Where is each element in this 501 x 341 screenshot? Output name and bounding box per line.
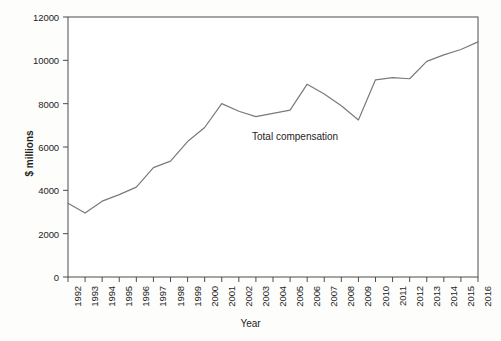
- x-axis-tick-label: 2010: [380, 286, 391, 307]
- x-axis-tick-label: 1996: [140, 286, 151, 307]
- x-axis-tick-label: 1994: [106, 286, 117, 307]
- x-axis-tick-label: 2001: [226, 286, 237, 307]
- x-axis-tick-label: 2015: [465, 286, 476, 307]
- y-axis-tick-marks: [63, 17, 68, 277]
- y-axis-tick-label: 2000: [10, 228, 59, 239]
- x-axis-tick-label: 2005: [294, 286, 305, 307]
- y-axis-title: $ millions: [24, 130, 35, 176]
- x-axis-tick-label: 2011: [397, 286, 408, 306]
- x-axis-tick-label: 1998: [175, 286, 186, 307]
- x-axis-tick-label: 2000: [209, 286, 220, 307]
- chart-figure: 020004000600080001000012000 199219931994…: [0, 0, 501, 341]
- x-axis-tick-label: 2002: [243, 286, 254, 307]
- y-axis-tick-label: 10000: [10, 55, 59, 66]
- x-axis-tick-label: 2003: [260, 286, 271, 307]
- x-axis-tick-label: 1999: [192, 286, 203, 307]
- x-axis-tick-label: 2013: [431, 286, 442, 307]
- x-axis-tick-label: 1997: [157, 286, 168, 307]
- x-axis-tick-label: 2006: [311, 286, 322, 307]
- y-axis-tick-label: 0: [10, 272, 59, 283]
- y-axis-tick-label: 12000: [10, 12, 59, 23]
- x-axis-tick-label: 2012: [414, 286, 425, 307]
- x-axis-tick-label: 2016: [482, 286, 493, 307]
- series-label-annotation: Total compensation: [252, 131, 338, 142]
- x-axis-tick-label: 1992: [72, 286, 83, 307]
- x-axis-tick-label: 2008: [345, 286, 356, 307]
- x-axis-tick-label: 1995: [123, 286, 134, 307]
- x-axis-tick-marks: [68, 277, 478, 282]
- x-axis-title: Year: [0, 318, 501, 329]
- x-axis-tick-label: 2009: [362, 286, 373, 307]
- y-axis-tick-label: 4000: [10, 185, 59, 196]
- plot-frame: [68, 17, 478, 277]
- x-axis-tick-label: 2007: [328, 286, 339, 307]
- x-axis-tick-label: 1993: [89, 286, 100, 307]
- y-axis-tick-label: 8000: [10, 98, 59, 109]
- x-axis-tick-label: 2004: [277, 286, 288, 307]
- x-axis-tick-label: 2014: [448, 286, 459, 307]
